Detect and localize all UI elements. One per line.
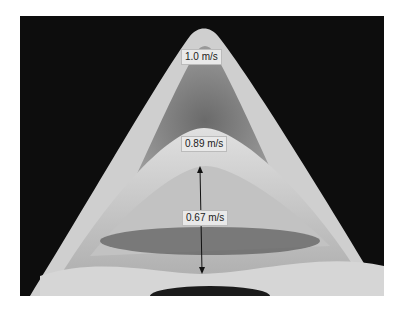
photograph: 1.0 m/s 0.89 m/s 0.67 m/s xyxy=(20,16,384,296)
velocity-label-0-89: 0.89 m/s xyxy=(181,136,227,152)
velocity-label-1-0: 1.0 m/s xyxy=(181,49,222,65)
velocity-label-0-67: 0.67 m/s xyxy=(182,210,228,226)
